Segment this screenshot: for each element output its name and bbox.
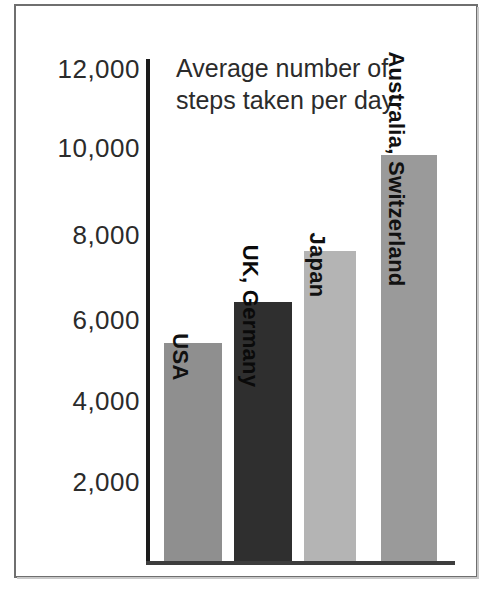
y-tick-8000: 8,000 xyxy=(20,222,140,248)
chart-title: Average number of steps taken per day xyxy=(176,52,466,116)
y-tick-10000: 10,000 xyxy=(20,135,140,161)
x-axis-baseline xyxy=(146,561,455,565)
chart-page: 12,000 10,000 8,000 6,000 4,000 2,000 Av… xyxy=(0,0,495,597)
y-tick-6000: 6,000 xyxy=(20,307,140,333)
bar-uk-germany: UK, Germany xyxy=(234,302,292,561)
y-tick-4000: 4,000 xyxy=(20,388,140,414)
bar-label-usa: USA xyxy=(167,334,193,381)
chart-title-line-1: Average number of xyxy=(176,52,466,84)
bar-label-uk-germany: UK, Germany xyxy=(237,244,263,387)
y-axis-tick-labels: 12,000 10,000 8,000 6,000 4,000 2,000 xyxy=(14,0,140,597)
y-tick-12000: 12,000 xyxy=(20,56,140,82)
bar-label-australia-switzerland: Australia, Switzerland xyxy=(383,52,409,287)
bar-usa: USA xyxy=(164,343,222,561)
y-axis-line xyxy=(146,59,150,565)
plot-area: 12,000 10,000 8,000 6,000 4,000 2,000 Av… xyxy=(0,0,495,597)
bar-label-japan: Japan xyxy=(304,233,330,298)
y-tick-2000: 2,000 xyxy=(20,469,140,495)
bar-japan: Japan xyxy=(304,251,356,561)
bar-australia-switzerland: Australia, Switzerland xyxy=(381,155,437,561)
chart-title-line-2: steps taken per day xyxy=(176,84,466,116)
